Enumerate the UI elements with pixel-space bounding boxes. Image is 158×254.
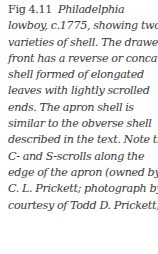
caption-line-5: shell formed of elongated <box>8 67 158 83</box>
caption-line-11: edge of the apron (owned by <box>8 165 158 181</box>
caption-line-4: front has a reverse or concave <box>8 51 158 67</box>
caption-line-9: described in the text. Note the <box>8 132 158 148</box>
caption-line-12: C. L. Prickett; photograph by <box>8 181 158 197</box>
caption-line-7: ends. The apron shell is <box>8 100 158 116</box>
caption-line-3: varieties of shell. The drawer <box>8 35 158 51</box>
figure-label: Fig 4.11 <box>8 3 52 16</box>
caption-line-6: leaves with lightly scrolled <box>8 83 158 99</box>
caption-line-10: C- and S-scrolls along the <box>8 149 158 165</box>
caption-line-2: lowboy, c.1775, showing two <box>8 18 158 34</box>
caption-line-8: similar to the obverse shell <box>8 116 158 132</box>
caption-line-1: Fig 4.11 Philadelphia <box>8 2 158 18</box>
figure-caption: Fig 4.11 Philadelphia lowboy, c.1775, sh… <box>8 2 158 214</box>
caption-line-13: courtesy of Todd D. Prickett) <box>8 198 158 214</box>
caption-line-text: Philadelphia <box>58 3 124 16</box>
